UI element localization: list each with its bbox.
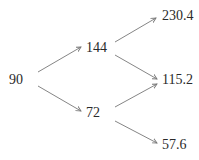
edge-up-upup [115, 18, 156, 42]
node-down-down: 57.6 [162, 138, 187, 152]
node-mid: 115.2 [162, 73, 193, 87]
edge-down-downdown [115, 121, 157, 143]
edge-down-mid [115, 84, 157, 107]
edge-root-down [38, 86, 81, 111]
edge-up-mid [115, 55, 157, 79]
node-up-up: 230.4 [162, 9, 194, 23]
node-root: 90 [9, 73, 23, 87]
node-up: 144 [86, 41, 107, 55]
node-down: 72 [86, 106, 100, 120]
edge-root-up [38, 47, 81, 72]
